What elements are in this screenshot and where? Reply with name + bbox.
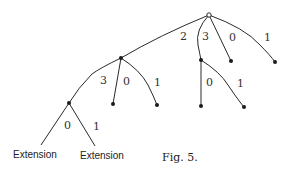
edge-root-to-c	[209, 15, 231, 61]
extension-label-right: Extension	[80, 150, 124, 161]
edge-root-to-a	[121, 15, 209, 58]
leaf-f	[111, 102, 115, 106]
edge-label-a-0: 0	[123, 75, 130, 88]
tree-diagram: 2 3 0 1 3 0 1 0 1 0 1 Extension Extensio…	[0, 0, 292, 175]
edge-label-root-1: 1	[264, 31, 271, 44]
edge-label-root-3: 3	[202, 30, 209, 43]
edge-label-e-0: 0	[64, 119, 71, 132]
leaf-d	[273, 60, 277, 64]
leaf-h	[199, 104, 203, 108]
node-e	[67, 101, 71, 105]
edge-label-e-1: 1	[93, 120, 100, 133]
leaf-g	[155, 103, 159, 107]
edge-a-to-e	[69, 58, 121, 103]
root-node	[207, 13, 211, 17]
edge-label-b-1: 1	[237, 77, 244, 90]
leaf-c	[229, 59, 233, 63]
edge-a-to-f	[113, 58, 121, 104]
edge-label-root-0: 0	[229, 31, 236, 44]
figure-caption: Fig. 5.	[162, 151, 198, 164]
edge-label-a-3: 3	[100, 74, 107, 87]
node-a	[119, 56, 123, 60]
extension-label-left: Extension	[13, 149, 57, 160]
edge-label-a-1: 1	[154, 76, 161, 89]
node-b	[199, 58, 203, 62]
edge-label-root-2: 2	[180, 30, 187, 43]
leaf-i	[242, 105, 246, 109]
edge-label-b-0: 0	[206, 76, 213, 89]
edge-e-to-extension-right	[69, 103, 95, 146]
